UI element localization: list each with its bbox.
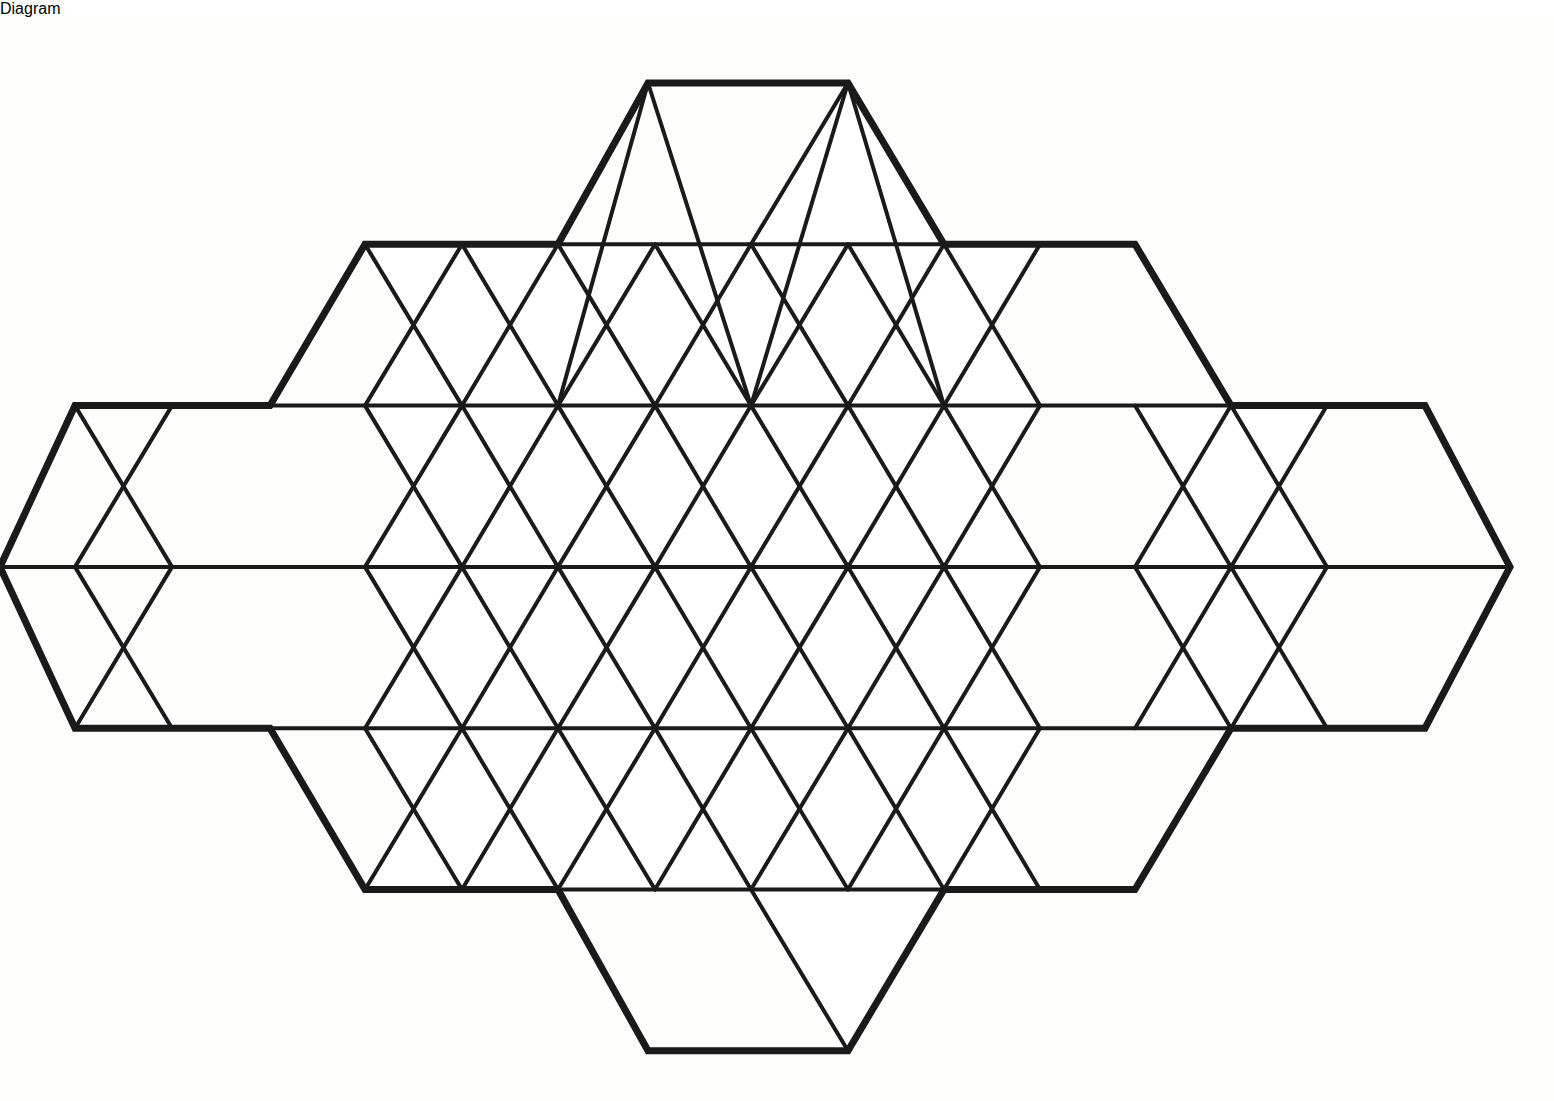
triangular-net-svg (0, 18, 1554, 1101)
net-diagram-canvas (0, 18, 1554, 1101)
